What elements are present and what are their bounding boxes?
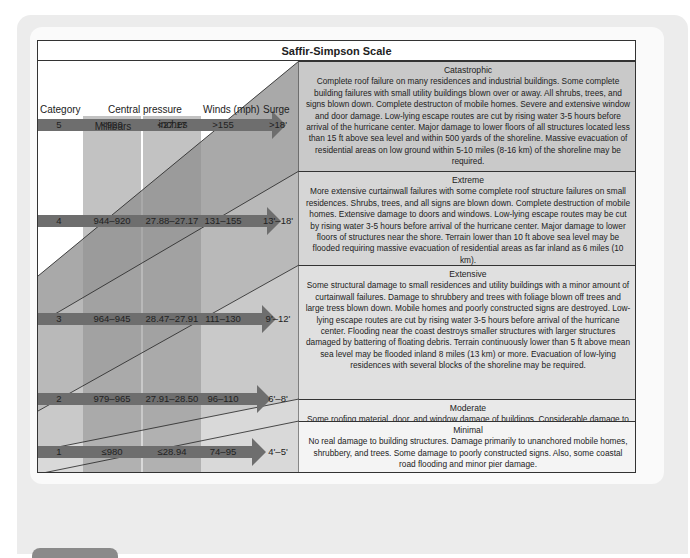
cell-surge: >18' xyxy=(256,119,300,130)
cell-surge: 9'–12' xyxy=(256,313,300,324)
cell-millibars: 979–965 xyxy=(83,393,141,404)
level-description: Some structural damage to small residenc… xyxy=(306,280,631,370)
header-central-pressure: Central pressure xyxy=(108,104,182,115)
description-extensive: ExtensiveSome structural damage to small… xyxy=(299,265,636,399)
cell-inches: <27.17 xyxy=(143,119,201,130)
cell-inches: 27.91–28.50 xyxy=(143,393,201,404)
header-surge: Surge xyxy=(263,104,290,115)
cell-millibars: 944–920 xyxy=(83,215,141,226)
description-minimal: MinimalNo real damage to building struct… xyxy=(299,421,636,473)
cell-surge: 13'–18' xyxy=(256,215,300,226)
saffir-simpson-diagram: Saffir-Simpson Scale Category Central pr… xyxy=(37,40,636,473)
cell-winds: 96–110 xyxy=(198,393,248,404)
cell-category: 3 xyxy=(38,313,80,324)
cell-category: 1 xyxy=(38,446,80,457)
level-name: Moderate xyxy=(305,403,631,414)
cell-inches: 27.88–27.17 xyxy=(143,215,201,226)
cell-surge: 4'–5' xyxy=(256,446,300,457)
inches-column xyxy=(143,116,201,473)
cell-winds: >155 xyxy=(198,119,248,130)
cell-category: 4 xyxy=(38,215,80,226)
level-name: Extensive xyxy=(305,269,631,280)
cell-winds: 74–95 xyxy=(198,446,248,457)
cell-millibars: <920 xyxy=(83,119,141,130)
level-name: Extreme xyxy=(305,175,631,186)
cell-category: 5 xyxy=(38,119,80,130)
cell-winds: 111–130 xyxy=(198,313,248,324)
level-description: Complete roof failure on many residences… xyxy=(306,76,630,166)
cell-inches: ≤28.94 xyxy=(143,446,201,457)
header-category: Category xyxy=(40,104,81,115)
level-description: More extensive curtainwall failures with… xyxy=(306,186,630,264)
level-name: Catastrophic xyxy=(305,65,631,76)
level-description: No real damage to building structures. D… xyxy=(308,436,627,469)
bottom-tab xyxy=(32,548,118,558)
description-catastrophic: CatastrophicComplete roof failure on man… xyxy=(299,61,636,171)
description-extreme: ExtremeMore extensive curtainwall failur… xyxy=(299,171,636,265)
cell-surge: 6'–8' xyxy=(256,393,300,404)
header-winds: Winds (mph) xyxy=(203,104,260,115)
cell-millibars: ≤980 xyxy=(83,446,141,457)
cell-category: 2 xyxy=(38,393,80,404)
cell-inches: 28.47–27.91 xyxy=(143,313,201,324)
millibars-column xyxy=(83,116,141,473)
cell-millibars: 964–945 xyxy=(83,313,141,324)
cell-winds: 131–155 xyxy=(198,215,248,226)
level-name: Minimal xyxy=(305,425,631,436)
diagram-title: Saffir-Simpson Scale xyxy=(38,45,635,57)
